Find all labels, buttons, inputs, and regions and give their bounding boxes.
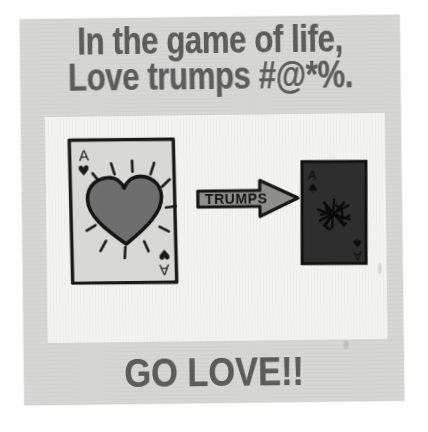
card-suit-top: ♥: [77, 162, 90, 178]
ace-of-spades-card: A ♠ A ♠: [297, 157, 370, 268]
poster-sheet: In the game of life, Love trumps #@*%. A…: [20, 15, 405, 406]
card-suit-bottom: ♥: [158, 246, 171, 262]
trumps-arrow: TRUMPS: [194, 174, 305, 223]
card-rank-bottom: A: [159, 261, 170, 278]
poster-headline: In the game of life, Love trumps #@*%.: [54, 21, 366, 96]
poster-footer: GO LOVE!!: [50, 348, 377, 397]
illustration-panel: A ♥ A ♥: [45, 113, 388, 343]
card-suit-top: ♠: [307, 181, 319, 196]
arrow-label: TRUMPS: [205, 190, 268, 207]
card-rank-top: A: [78, 146, 89, 163]
headline-line-2: Love trumps #@*%.: [54, 57, 366, 97]
card-suit-bottom: ♠: [351, 235, 363, 250]
photo-canvas: In the game of life, Love trumps #@*%. A…: [0, 0, 428, 432]
ace-of-hearts-card: A ♥ A ♥: [63, 131, 187, 292]
